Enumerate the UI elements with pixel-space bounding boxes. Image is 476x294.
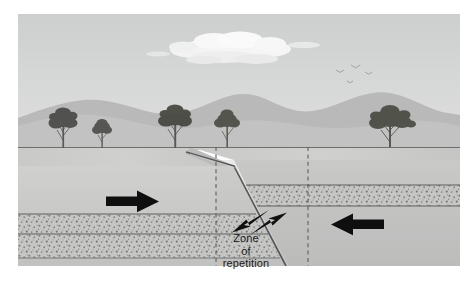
zone-of-repetition-label: Zone of repetition — [198, 232, 294, 270]
zone-label-line-3: repetition — [198, 257, 294, 270]
zone-label-line-2: of — [198, 245, 294, 258]
figure-stage: Zone of repetition — [0, 0, 476, 294]
zone-label-line-1: Zone — [198, 232, 294, 245]
